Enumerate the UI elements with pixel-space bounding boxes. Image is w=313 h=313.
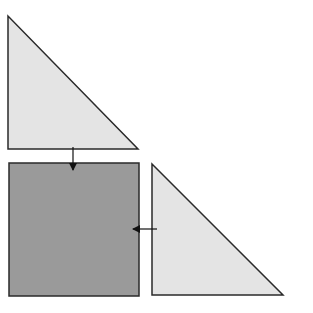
right-triangle — [152, 164, 283, 295]
combined-square — [9, 163, 139, 296]
top-triangle — [8, 16, 138, 149]
diagram-canvas — [0, 0, 313, 313]
diagram-svg — [0, 0, 313, 313]
